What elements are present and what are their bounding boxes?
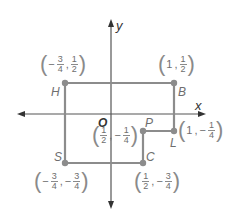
coord-c: ( 12 , − 34 )	[134, 170, 180, 192]
label-b: B	[178, 86, 186, 98]
point-s	[62, 160, 68, 166]
coord-b: ( 1 , 12 )	[158, 53, 195, 75]
coord-l: ( 1 , − 14 )	[178, 119, 223, 141]
coord-s: ( − 34 , − 34 )	[34, 170, 89, 192]
x-axis-left-arrow-icon	[17, 111, 25, 117]
polygon-hblpcs	[65, 83, 174, 163]
y-axis-label: y	[116, 19, 123, 32]
label-h: H	[51, 86, 60, 98]
x-axis-label: x	[195, 99, 202, 112]
label-c: C	[146, 151, 155, 163]
y-axis-up-arrow-icon	[108, 19, 114, 27]
label-s: S	[54, 151, 62, 163]
point-b	[171, 80, 177, 86]
coord-p: ( 12 , − 14 )	[92, 124, 138, 146]
label-p: P	[145, 117, 153, 129]
point-h	[62, 80, 68, 86]
coord-h: ( − 34 , 12 )	[40, 53, 86, 75]
point-l	[171, 128, 177, 134]
label-l: L	[170, 137, 177, 149]
y-axis-down-arrow-icon	[108, 201, 114, 209]
